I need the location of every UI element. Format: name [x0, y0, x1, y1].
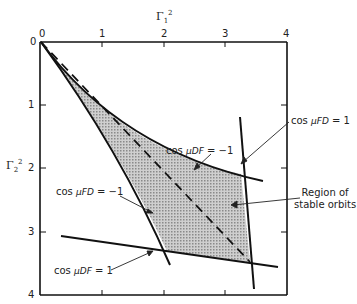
x-tick-1: 1	[99, 29, 105, 39]
label-eq: = 1	[95, 265, 113, 276]
y-axis-title-sub: 2	[14, 166, 18, 174]
y-axis-title-base: Γ	[6, 159, 14, 172]
label-cos: cos	[56, 186, 73, 197]
y-tick-4: 4	[28, 290, 34, 300]
label-cos-mufd-plus1: cos μFD = 1	[291, 116, 350, 126]
y-tick-3: 3	[28, 227, 34, 237]
label-eq: = −1	[207, 145, 233, 156]
y-tick-1: 1	[28, 100, 34, 110]
label-eq: = 1	[332, 115, 350, 126]
region-label-line-2: stable orbits	[294, 199, 356, 211]
label-cos: cos	[54, 265, 71, 276]
label-cos-mufd-minus1: cos μFD = −1	[56, 187, 123, 197]
label-mu: μDF	[186, 146, 204, 156]
y-axis-title-sup: 2	[18, 158, 22, 166]
region-label: Region of stable orbits	[294, 187, 356, 211]
region-label-line-1: Region of	[294, 187, 356, 199]
y-tick-2: 2	[28, 163, 34, 173]
x-tick-3: 3	[222, 29, 228, 39]
label-cos: cos	[166, 145, 183, 156]
label-mu: μDF	[74, 266, 92, 276]
stability-diagram: Γ12 0 1 2 3 4 0 1 2 3 4 Γ22 cos μDF = −1…	[0, 0, 357, 304]
x-axis-title: Γ12	[156, 10, 173, 25]
y-tick-0: 0	[30, 37, 36, 47]
label-mu: μFD	[311, 116, 329, 126]
x-axis-title-base: Γ	[156, 10, 164, 23]
label-cos-mudf-minus1: cos μDF = −1	[166, 146, 233, 156]
x-tick-4: 4	[283, 29, 289, 39]
label-cos-mudf-plus1: cos μDF = 1	[54, 266, 113, 276]
y-axis-title: Γ22	[6, 159, 23, 174]
label-mu: μFD	[76, 187, 94, 197]
x-tick-2: 2	[161, 29, 167, 39]
x-tick-0: 0	[39, 29, 45, 39]
x-axis-title-sub: 1	[164, 17, 168, 25]
label-cos: cos	[291, 115, 308, 126]
x-axis-title-sup: 2	[168, 9, 172, 17]
label-eq: = −1	[97, 186, 123, 197]
